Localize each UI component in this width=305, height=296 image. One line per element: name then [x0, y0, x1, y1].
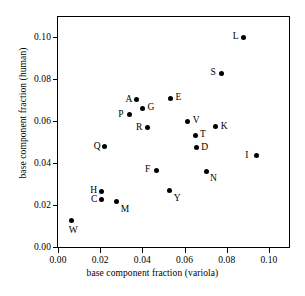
data-point-label-g: G — [147, 102, 154, 112]
y-tick-mark — [53, 37, 58, 38]
data-point-label-c: C — [91, 194, 97, 204]
x-tick-mark — [142, 248, 143, 253]
data-point-h — [99, 189, 104, 194]
data-point-l — [241, 35, 246, 40]
data-point-w — [69, 218, 74, 223]
y-tick-label: 0.10 — [11, 32, 51, 42]
y-tick-label: 0.04 — [11, 158, 51, 168]
data-point-label-t: T — [200, 129, 206, 139]
data-point-d — [194, 145, 199, 150]
y-tick-label: 0.00 — [11, 242, 51, 252]
data-point-label-k: K — [221, 121, 228, 131]
data-point-i — [254, 153, 259, 158]
data-point-y — [167, 188, 172, 193]
data-point-label-r: R — [136, 122, 142, 132]
data-point-k — [213, 124, 218, 129]
x-tick-mark — [100, 248, 101, 253]
data-point-r — [145, 125, 150, 130]
data-point-label-d: D — [201, 142, 208, 152]
data-point-label-m: M — [121, 204, 129, 214]
y-tick-mark — [53, 121, 58, 122]
x-tick-mark — [269, 248, 270, 253]
data-point-m — [114, 199, 119, 204]
data-point-label-w: W — [69, 225, 78, 235]
x-tick-mark — [227, 248, 228, 253]
data-point-t — [193, 133, 198, 138]
y-axis-label: base component fraction (human) — [18, 0, 28, 228]
x-tick-mark — [185, 248, 186, 253]
data-point-c — [99, 197, 104, 202]
plot-area: 0.000.020.040.060.080.10 0.000.020.040.0… — [57, 16, 290, 248]
data-point-label-f: F — [145, 164, 150, 174]
data-point-label-s: S — [210, 67, 215, 77]
x-tick-label: 0.00 — [38, 255, 78, 265]
x-tick-label: 0.10 — [249, 255, 289, 265]
data-point-f — [154, 168, 159, 173]
y-tick-label: 0.02 — [11, 200, 51, 210]
data-point-p — [127, 112, 132, 117]
x-tick-label: 0.06 — [165, 255, 205, 265]
data-point-label-a: A — [125, 94, 132, 104]
data-point-label-e: E — [175, 92, 181, 102]
data-point-label-q: Q — [94, 141, 101, 151]
data-point-s — [219, 71, 224, 76]
x-tick-mark — [58, 248, 59, 253]
x-tick-label: 0.04 — [122, 255, 162, 265]
data-point-label-i: I — [245, 150, 248, 160]
data-point-e — [168, 96, 173, 101]
y-tick-label: 0.06 — [11, 116, 51, 126]
scatter-plot-figure: 0.000.020.040.060.080.10 0.000.020.040.0… — [0, 0, 305, 296]
x-tick-label: 0.08 — [207, 255, 247, 265]
data-point-g — [140, 106, 145, 111]
data-point-label-v: V — [193, 115, 200, 125]
data-point-a — [134, 97, 139, 102]
data-point-q — [102, 144, 107, 149]
data-point-label-p: P — [118, 109, 123, 119]
x-tick-label: 0.02 — [80, 255, 120, 265]
y-tick-label: 0.08 — [11, 74, 51, 84]
data-point-label-n: N — [210, 173, 217, 183]
x-axis-label: base component fraction (variola) — [0, 268, 305, 278]
y-tick-mark — [53, 163, 58, 164]
data-point-v — [185, 119, 190, 124]
y-tick-mark — [53, 79, 58, 80]
y-tick-mark — [53, 205, 58, 206]
data-point-label-l: L — [233, 31, 239, 41]
data-point-n — [204, 169, 209, 174]
data-point-label-y: Y — [174, 193, 181, 203]
